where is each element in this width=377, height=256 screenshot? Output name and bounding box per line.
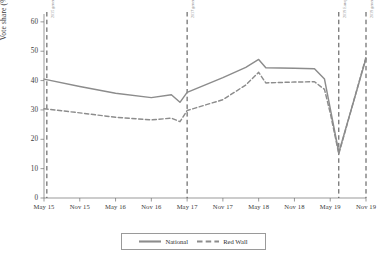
legend-label-national: National [165, 238, 188, 245]
event-line-label: 2019 European election [342, 0, 347, 18]
chart-container: Vote share (%) 0102030405060 May 15Nov 1… [0, 0, 377, 256]
legend-item-national: National [139, 238, 188, 245]
legend-swatch-solid [139, 238, 161, 245]
legend-label-red-wall: Red Wall [223, 238, 247, 245]
event-line-label: 2017 general election [190, 0, 195, 18]
series-line-national [44, 59, 366, 153]
event-line-label: 2019 general election [369, 0, 374, 18]
chart-plot [0, 0, 377, 256]
event-line-label: 2015 general election [50, 0, 55, 18]
legend-item-red-wall: Red Wall [197, 238, 247, 245]
legend-swatch-dashed [197, 238, 219, 245]
chart-legend: National Red Wall [121, 233, 266, 250]
